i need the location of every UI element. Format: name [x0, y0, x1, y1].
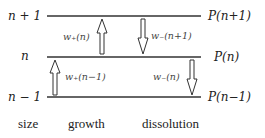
growth-arrow-upper-icon: [97, 19, 107, 54]
growth-arrow-lower-icon: [50, 60, 60, 95]
prob-label-n: P(n): [213, 50, 239, 64]
prob-label-n-minus-1: P(n−1): [207, 90, 251, 104]
rate-label-dissolution-upper: w₋(n+1): [151, 30, 192, 41]
size-label-n-plus-1: n + 1: [8, 9, 41, 23]
rate-label-growth-lower: w₊(n−1): [65, 71, 106, 82]
prob-label-n-plus-1: P(n+1): [207, 9, 251, 23]
birth-death-diagram: n + 1 n n − 1 P(n+1) P(n) P(n−1) w₊(n) w…: [0, 0, 265, 138]
size-label-n: n: [21, 49, 29, 63]
size-label-n-minus-1: n − 1: [8, 90, 41, 104]
rate-label-dissolution-lower: w₋(n): [153, 71, 180, 82]
footer-dissolution-label: dissolution: [142, 116, 200, 131]
dissolution-arrow-upper-icon: [138, 19, 148, 54]
rate-label-growth-upper: w₊(n): [63, 31, 90, 42]
footer-size-label: size: [18, 116, 38, 131]
footer-growth-label: growth: [68, 116, 105, 131]
dissolution-arrow-lower-icon: [187, 60, 197, 95]
